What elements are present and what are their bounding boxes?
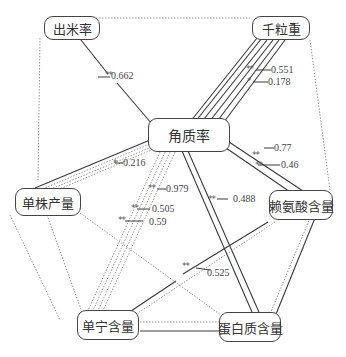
coef-label: 0.216: [123, 157, 146, 168]
coef-label: 0.59: [149, 216, 167, 227]
coef-label: 0.662: [111, 70, 134, 81]
coef-label: 0.46: [281, 159, 299, 170]
coef-label: 0.979: [166, 183, 189, 194]
coef-label: 0.77: [274, 142, 292, 153]
node-jiaozhilv: 角质率: [148, 118, 230, 152]
coef-label: 0.178: [268, 76, 291, 87]
sig-mark: *: [113, 158, 117, 168]
coef-label: 0.525: [207, 267, 230, 278]
sig-mark: **: [182, 261, 189, 271]
node-danzhuchanliang: 单株产量: [15, 188, 81, 216]
edge-line: [117, 83, 152, 124]
sig-mark: *: [247, 76, 251, 86]
node-chumilv: 出米率: [44, 16, 100, 40]
coef-label: 0.488: [233, 193, 256, 204]
correlation-network-diagram: 出米率 千粒重 角质率 单株产量 赖氨酸含量 单宁含量 蛋白质含量 ** ** …: [0, 0, 346, 357]
node-qianlizhong: 千粒重: [252, 16, 310, 40]
edges-layer: [0, 0, 346, 357]
node-danning: 单宁含量: [77, 310, 139, 340]
sig-mark: **: [246, 64, 253, 74]
coef-label: 0.551: [271, 64, 294, 75]
sig-mark: **: [148, 183, 155, 193]
sig-mark: **: [208, 194, 215, 204]
sig-mark: **: [255, 160, 262, 170]
node-laiansuan: 赖氨酸含量: [269, 190, 333, 220]
sig-mark: **: [252, 150, 259, 160]
edge-line: [77, 35, 108, 74]
coef-label: 0.505: [152, 203, 175, 214]
sig-mark: **: [131, 203, 138, 213]
node-danbaizhi: 蛋白质含量: [219, 312, 281, 342]
sig-mark: **: [118, 215, 125, 225]
